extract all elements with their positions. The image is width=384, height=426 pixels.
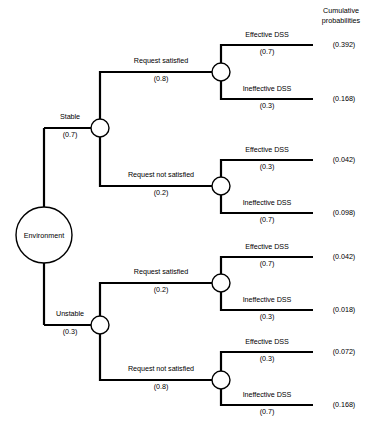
chance-node-unstable-satisfied [212, 274, 230, 292]
chance-node-stable-not-satisfied [212, 177, 230, 195]
outcome-label-1: Effective DSS [245, 31, 289, 38]
cumulative-probability-4: (0.098) [333, 209, 355, 216]
outcome-prob-6: (0.3) [260, 313, 275, 320]
chance-node-unstable-not-satisfied [212, 371, 230, 389]
tree-edges [0, 0, 384, 426]
outcome-prob-2: (0.3) [260, 102, 275, 109]
branch-prob-stable-satisfied: (0.8) [154, 75, 169, 82]
outcome-prob-7: (0.3) [260, 355, 275, 362]
outcome-label-2: Ineffective DSS [243, 85, 292, 92]
chance-node-unstable [91, 316, 109, 334]
cumulative-probabilities-header: Cumulative probabilities [322, 6, 360, 25]
root-node-label: Environment [24, 231, 64, 240]
branch-label-stable-satisfied: Request satisfied [134, 57, 188, 64]
cumulative-probability-7: (0.072) [333, 348, 355, 355]
cumulative-probability-2: (0.168) [333, 95, 355, 102]
outcome-label-6: Ineffective DSS [243, 296, 292, 303]
outcome-prob-4: (0.7) [260, 216, 275, 223]
branch-prob-unstable-satisfied: (0.2) [154, 286, 169, 293]
branch-prob-stable: (0.7) [63, 131, 78, 138]
outcome-label-8: Ineffective DSS [243, 391, 292, 398]
cumulative-probability-1: (0.392) [333, 41, 355, 48]
header-line-2: probabilities [322, 16, 360, 26]
outcome-prob-3: (0.3) [260, 163, 275, 170]
outcome-prob-8: (0.7) [260, 408, 275, 415]
outcome-label-5: Effective DSS [245, 243, 289, 250]
cumulative-probability-3: (0.042) [333, 156, 355, 163]
chance-node-stable [91, 119, 109, 137]
branch-prob-stable-not-satisfied: (0.2) [154, 189, 169, 196]
outcome-prob-1: (0.7) [260, 48, 275, 55]
branch-label-unstable-satisfied: Request satisfied [134, 268, 188, 275]
outcome-label-7: Effective DSS [245, 338, 289, 345]
header-line-1: Cumulative [322, 6, 360, 16]
cumulative-probability-8: (0.168) [333, 401, 355, 408]
branch-prob-unstable-not-satisfied: (0.8) [154, 383, 169, 390]
outcome-label-3: Effective DSS [245, 146, 289, 153]
branch-label-stable-not-satisfied: Request not satisfied [128, 171, 194, 178]
branch-label-unstable: Unstable [56, 310, 84, 317]
chance-node-stable-satisfied [212, 63, 230, 81]
branch-label-unstable-not-satisfied: Request not satisfied [128, 365, 194, 372]
branch-prob-unstable: (0.3) [63, 328, 78, 335]
decision-tree-figure: Cumulative probabilities Environment Sta… [0, 0, 384, 426]
cumulative-probability-5: (0.042) [333, 253, 355, 260]
outcome-label-4: Ineffective DSS [243, 199, 292, 206]
branch-label-stable: Stable [60, 113, 80, 120]
cumulative-probability-6: (0.018) [333, 306, 355, 313]
outcome-prob-5: (0.7) [260, 260, 275, 267]
